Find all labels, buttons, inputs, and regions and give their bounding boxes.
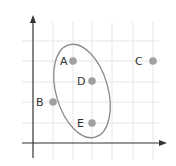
point-marker [49,98,57,106]
point-label: B [36,96,44,109]
x-axis-arrow-icon [159,140,167,146]
point-marker [88,77,96,85]
point-label: A [60,55,68,68]
scatter-diagram: ABCDE [0,0,176,166]
point-label: D [77,75,85,88]
point-marker [149,57,157,65]
point-label: E [77,117,84,130]
y-axis-arrow-icon [30,15,36,23]
point-label: C [135,55,143,68]
grid-lines [22,22,160,160]
axes [22,15,167,158]
point-marker [88,119,96,127]
point-marker [69,57,77,65]
